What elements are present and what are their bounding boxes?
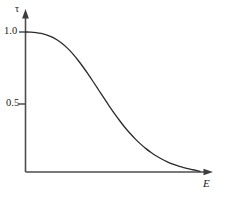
transmission-coefficient-plot: 1.0 0.5 τ E xyxy=(0,0,234,202)
plot-canvas xyxy=(0,0,234,202)
y-axis-label: τ xyxy=(15,4,19,14)
y-axis-arrowhead xyxy=(22,9,29,19)
curve-tau-of-e xyxy=(26,32,201,171)
y-tick-label-0-5: 0.5 xyxy=(6,98,19,109)
x-axis-label: E xyxy=(203,178,210,189)
y-tick-label-1-0: 1.0 xyxy=(4,26,17,37)
x-axis-arrowhead xyxy=(204,169,214,175)
